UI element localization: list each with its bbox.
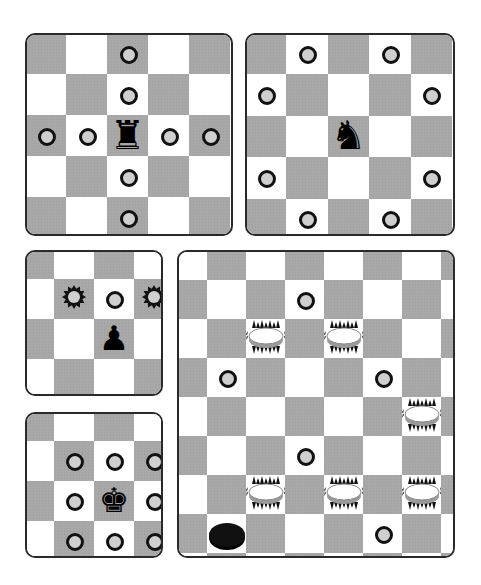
board-square[interactable] [54,521,94,558]
board-square[interactable] [369,116,410,157]
board-square[interactable] [285,250,324,280]
board-square[interactable] [324,358,363,397]
board-square[interactable] [285,358,324,397]
board-square[interactable] [363,514,402,553]
board-square[interactable] [246,436,285,475]
board-square[interactable] [207,280,246,319]
board-square[interactable] [285,553,324,558]
board-square[interactable] [411,33,452,74]
board-square[interactable] [411,157,452,198]
board-square[interactable] [441,514,455,553]
board-square[interactable] [189,33,230,74]
board-square[interactable] [363,250,402,280]
board-square[interactable] [134,441,163,481]
board-square[interactable] [369,33,410,74]
board-square[interactable] [54,481,94,521]
board-square[interactable] [134,359,163,396]
board-square[interactable]: ♟ [94,319,134,359]
captured-light-checker-icon[interactable] [402,475,442,515]
board-square[interactable] [246,319,285,358]
board-square[interactable] [134,412,163,441]
board-square[interactable] [134,250,163,279]
board-square[interactable] [94,441,134,481]
board-square[interactable] [402,358,441,397]
board-square[interactable] [328,74,369,115]
board-square[interactable] [328,157,369,198]
board-square[interactable]: ♚ [94,481,134,521]
board-square[interactable] [363,475,402,514]
board-square[interactable] [411,74,452,115]
board-square[interactable] [66,197,107,236]
board-square[interactable] [324,280,363,319]
board-square[interactable] [54,359,94,396]
board-square[interactable] [285,436,324,475]
board-square[interactable] [54,279,94,319]
board-square[interactable] [107,74,148,115]
board-square[interactable] [25,115,66,156]
board-square[interactable] [363,358,402,397]
captured-light-checker-icon[interactable] [324,319,364,359]
board-square[interactable] [363,436,402,475]
board-square[interactable] [246,397,285,436]
board-square[interactable] [25,481,54,521]
board-square[interactable] [441,436,455,475]
board-square[interactable] [25,412,54,441]
board-square[interactable] [25,33,66,74]
board-square[interactable] [107,33,148,74]
board-square[interactable] [94,521,134,558]
board-square[interactable] [286,116,327,157]
board-square[interactable] [245,33,286,74]
captured-light-checker-icon[interactable] [402,397,442,437]
board-square[interactable] [324,397,363,436]
board-square[interactable] [107,156,148,197]
board-square[interactable] [441,319,455,358]
board-square[interactable] [207,475,246,514]
board-square[interactable] [177,553,207,558]
board-square[interactable] [324,319,363,358]
pawn-icon[interactable]: ♟ [99,321,129,355]
board-square[interactable] [402,514,441,553]
board-square[interactable] [177,475,207,514]
board-square[interactable] [402,280,441,319]
board-square[interactable] [148,197,189,236]
board-square[interactable] [363,397,402,436]
board-square[interactable] [148,156,189,197]
board-square[interactable] [25,197,66,236]
board-square[interactable] [285,475,324,514]
board-square[interactable] [177,514,207,553]
board-square[interactable] [402,475,441,514]
board-square[interactable] [441,397,455,436]
board-square[interactable] [245,157,286,198]
board-square[interactable] [324,514,363,553]
board-square[interactable] [246,250,285,280]
board-square[interactable] [286,74,327,115]
board-square[interactable] [441,553,455,558]
board-square[interactable] [134,279,163,319]
rook-icon[interactable]: ♜ [110,115,146,155]
board-square[interactable] [324,436,363,475]
board-square[interactable]: ♜ [107,115,148,156]
board-square[interactable] [245,199,286,236]
board-square[interactable] [66,33,107,74]
board-square[interactable] [285,514,324,553]
board-square[interactable] [189,115,230,156]
board-square[interactable] [246,475,285,514]
board-square[interactable] [207,553,246,558]
board-square[interactable] [25,250,54,279]
board-square[interactable] [189,197,230,236]
board-square[interactable] [207,250,246,280]
board-square[interactable] [54,319,94,359]
board-square[interactable] [177,250,207,280]
captured-light-checker-icon[interactable] [324,475,364,515]
board-square[interactable]: ♞ [328,116,369,157]
board-square[interactable] [107,197,148,236]
board-square[interactable] [25,521,54,558]
board-square[interactable] [245,74,286,115]
captured-light-checker-icon[interactable] [246,319,286,359]
board-square[interactable] [324,475,363,514]
board-square[interactable] [177,397,207,436]
knight-icon[interactable]: ♞ [331,116,367,156]
board-square[interactable] [66,156,107,197]
board-square[interactable] [25,156,66,197]
board-square[interactable] [177,358,207,397]
